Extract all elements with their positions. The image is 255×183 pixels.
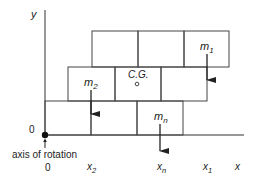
block — [138, 31, 184, 67]
x2-label: x2 — [86, 161, 97, 175]
cg-marker-icon — [135, 82, 139, 86]
mn-label: mn — [154, 110, 168, 125]
origin-y-label: 0 — [29, 124, 35, 135]
block — [161, 67, 207, 101]
block — [45, 101, 91, 135]
xn-label: xn — [156, 161, 166, 175]
y-axis-label: y — [30, 8, 38, 20]
origin-dot — [42, 132, 48, 138]
cg-label: C.G. — [128, 69, 149, 80]
m1-label: m1 — [200, 40, 214, 55]
axis-pointer-head-icon — [43, 139, 47, 143]
block — [91, 101, 137, 135]
origin-x-label: 0 — [45, 162, 51, 173]
x-axis-label: x — [234, 161, 241, 172]
x1-label: x1 — [202, 161, 212, 175]
weight-arrows — [91, 54, 207, 151]
rotation-diagram: C.G. m1 m2 mn y 0 axis of rotation 0 x2 … — [0, 0, 255, 183]
block — [92, 31, 138, 67]
m2-label: m2 — [84, 76, 98, 91]
axis-of-rotation-label: axis of rotation — [12, 149, 77, 160]
